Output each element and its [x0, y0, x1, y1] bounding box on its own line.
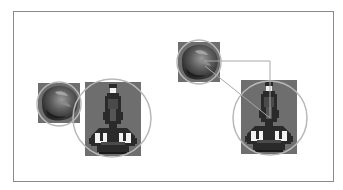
collision-diagram	[0, 0, 343, 190]
asteroid-sprite-right	[178, 42, 220, 82]
ship-sprite-left	[85, 82, 141, 156]
